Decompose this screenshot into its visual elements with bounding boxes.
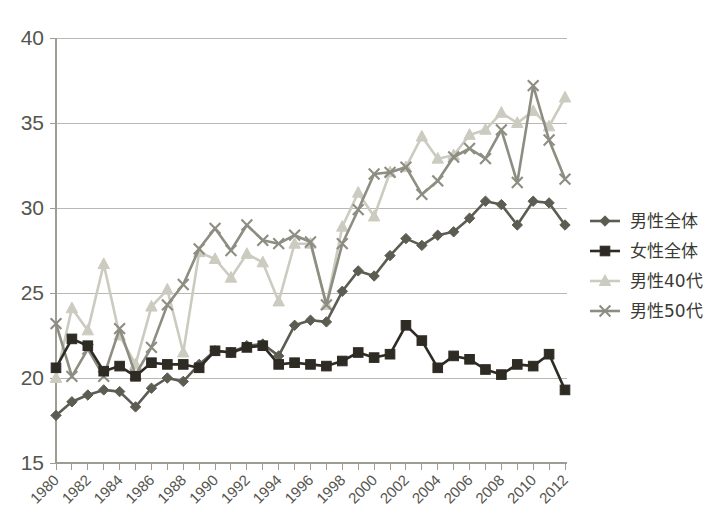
y-axis-label-40: 40	[21, 26, 44, 49]
data-point-2-2000	[369, 353, 379, 363]
x-axis-labels: 1980198219841986198819901992199419961998…	[27, 471, 572, 507]
x-axis-label-1994: 1994	[249, 471, 285, 507]
x-axis-label-1990: 1990	[186, 471, 222, 507]
data-point-3-2012	[559, 91, 570, 102]
data-point-2-1986	[147, 358, 157, 368]
data-point-3-1983	[98, 258, 109, 269]
data-point-2-2009	[512, 360, 522, 370]
x-axis-label-1992: 1992	[217, 471, 253, 507]
x-axis-label-2012: 2012	[536, 471, 572, 507]
data-point-1-1995	[289, 320, 299, 330]
data-point-1-1996	[305, 315, 315, 325]
data-point-4-1988	[178, 279, 189, 290]
data-point-4-2004	[432, 175, 443, 186]
data-point-2-1991	[226, 348, 236, 358]
x-axis-label-2010: 2010	[504, 471, 540, 507]
data-point-3-1988	[178, 346, 189, 357]
data-point-2-1985	[131, 372, 141, 382]
data-point-2-1987	[163, 360, 173, 370]
x-axis-label-1996: 1996	[281, 471, 317, 507]
data-point-2-1996	[306, 360, 316, 370]
series-3	[50, 91, 570, 382]
y-axis-labels: 403530252015	[21, 26, 44, 474]
legend-item-4[interactable]: 男性50代	[590, 301, 703, 321]
data-point-4-1990	[210, 223, 221, 234]
x-axis-label-1986: 1986	[122, 471, 158, 507]
x-axis-label-1982: 1982	[58, 471, 94, 507]
data-point-2-2008	[497, 370, 507, 380]
data-point-3-1998	[337, 221, 348, 232]
x-axis-label-2002: 2002	[376, 471, 412, 507]
data-point-2-1993	[258, 341, 268, 351]
data-point-2-2003	[417, 336, 427, 346]
y-axis-label-15: 15	[21, 451, 44, 474]
series-line-1	[56, 201, 565, 415]
data-series	[50, 80, 570, 420]
data-point-2-2006	[465, 355, 475, 365]
data-point-4-2003	[416, 189, 427, 200]
data-point-4-2007	[480, 153, 491, 164]
legend-marker-square-icon	[600, 246, 610, 256]
data-point-2-1983	[99, 366, 109, 376]
data-point-3-2003	[416, 130, 427, 141]
data-point-2-1999	[353, 348, 363, 358]
data-point-2-1992	[242, 343, 252, 353]
data-point-2-1990	[210, 346, 220, 356]
data-point-2-1980	[51, 363, 61, 373]
data-point-1-1983	[99, 385, 109, 395]
x-axis-label-1984: 1984	[90, 471, 126, 507]
data-point-4-1986	[146, 342, 157, 353]
chart-canvas: 403530252015 198019821984198619881990199…	[0, 0, 720, 518]
data-point-2-1998	[338, 356, 348, 366]
data-point-2-2010	[528, 361, 538, 371]
legend-marker-diamond-icon	[600, 216, 610, 226]
y-axis-label-20: 20	[21, 366, 44, 389]
data-point-2-2004	[433, 363, 443, 373]
data-point-2-1984	[115, 361, 125, 371]
data-point-3-1980	[50, 372, 61, 383]
data-point-4-2012	[560, 174, 571, 185]
data-point-4-1999	[353, 204, 364, 215]
x-axis-label-2000: 2000	[345, 471, 381, 507]
data-point-2-2007	[481, 365, 491, 375]
line-chart: 403530252015 198019821984198619881990199…	[0, 0, 720, 518]
data-point-2-1995	[290, 358, 300, 368]
data-point-3-1981	[66, 302, 77, 313]
x-axis-ticks	[50, 38, 565, 470]
gridlines	[56, 38, 567, 378]
x-axis-label-1980: 1980	[27, 471, 63, 507]
data-point-3-1992	[241, 248, 252, 259]
legend-label-1: 男性全体	[630, 211, 698, 231]
legend-label-2: 女性全体	[630, 241, 698, 261]
data-point-2-1997	[322, 361, 332, 371]
x-axis-label-2004: 2004	[408, 471, 444, 507]
series-1	[51, 196, 570, 421]
y-axis-label-25: 25	[21, 281, 44, 304]
data-point-2-1994	[274, 360, 284, 370]
data-point-2-2011	[544, 349, 554, 359]
data-point-2-1989	[194, 363, 204, 373]
data-point-2-2012	[560, 385, 570, 395]
series-4	[51, 80, 571, 382]
y-axis-label-35: 35	[21, 111, 44, 134]
x-axis-label-2008: 2008	[472, 471, 508, 507]
data-point-3-1994	[273, 295, 284, 306]
data-point-4-2006	[464, 143, 475, 154]
x-axis-label-2006: 2006	[440, 471, 476, 507]
data-point-2-2005	[449, 351, 459, 361]
data-point-4-1992	[241, 220, 252, 231]
legend-label-3: 男性40代	[630, 271, 703, 291]
data-point-3-1999	[353, 187, 364, 198]
data-point-3-1987	[162, 283, 173, 294]
data-point-2-2001	[385, 349, 395, 359]
data-point-1-1997	[321, 317, 331, 327]
data-point-2-1981	[67, 334, 77, 344]
y-axis-label-30: 30	[21, 196, 44, 219]
legend-item-3[interactable]: 男性40代	[590, 271, 703, 291]
x-axis-label-1988: 1988	[154, 471, 190, 507]
legend-item-2[interactable]: 女性全体	[590, 241, 698, 261]
legend-item-1[interactable]: 男性全体	[590, 211, 698, 231]
chart-legend: 男性全体女性全体男性40代男性50代	[590, 211, 703, 321]
data-point-2-1982	[83, 341, 93, 351]
data-point-1-1982	[83, 390, 93, 400]
